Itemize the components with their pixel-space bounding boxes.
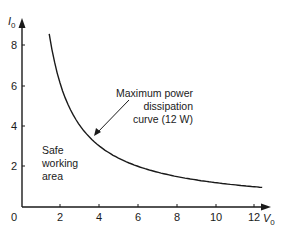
y-tick-label: 2	[11, 160, 17, 172]
curve-annotation-line: dissipation	[143, 100, 193, 112]
safe-area-line: area	[42, 170, 63, 182]
y-axis-label: I0	[8, 15, 16, 30]
curve-annotation-line: curve (12 W)	[133, 113, 193, 125]
curve-annotation: Maximum power dissipation curve (12 W)	[94, 87, 193, 136]
power-dissipation-chart: I0 2 4 6 8 0 2 4 6 8 10 12	[0, 0, 283, 235]
x-tick-label: 10	[210, 211, 222, 223]
y-tick-label: 4	[11, 120, 17, 132]
safe-area-line: working	[41, 157, 78, 169]
safe-area-line: Safe	[42, 144, 64, 156]
y-axis: I0 2 4 6 8	[8, 15, 26, 207]
annotation-arrow-icon	[94, 128, 101, 136]
safe-area-annotation: Safe working area	[41, 144, 78, 182]
curve-annotation-line: Maximum power	[116, 87, 194, 99]
y-ticks: 2 4 6 8	[11, 39, 25, 172]
x-tick-label: 12	[248, 211, 260, 223]
origin-label: 0	[11, 211, 17, 223]
y-tick-label: 8	[11, 39, 17, 51]
x-tick-label: 8	[174, 211, 180, 223]
annotation-arrow-line	[97, 100, 129, 133]
x-tick-label: 4	[96, 211, 102, 223]
y-axis-arrow-icon	[19, 18, 26, 28]
x-axis-arrow-icon	[261, 204, 271, 211]
x-tick-label: 2	[57, 211, 63, 223]
x-axis: 0 2 4 6 8 10 12 V0	[11, 204, 275, 228]
y-tick-label: 6	[11, 80, 17, 92]
x-tick-label: 6	[135, 211, 141, 223]
x-axis-label: V0	[263, 212, 275, 227]
